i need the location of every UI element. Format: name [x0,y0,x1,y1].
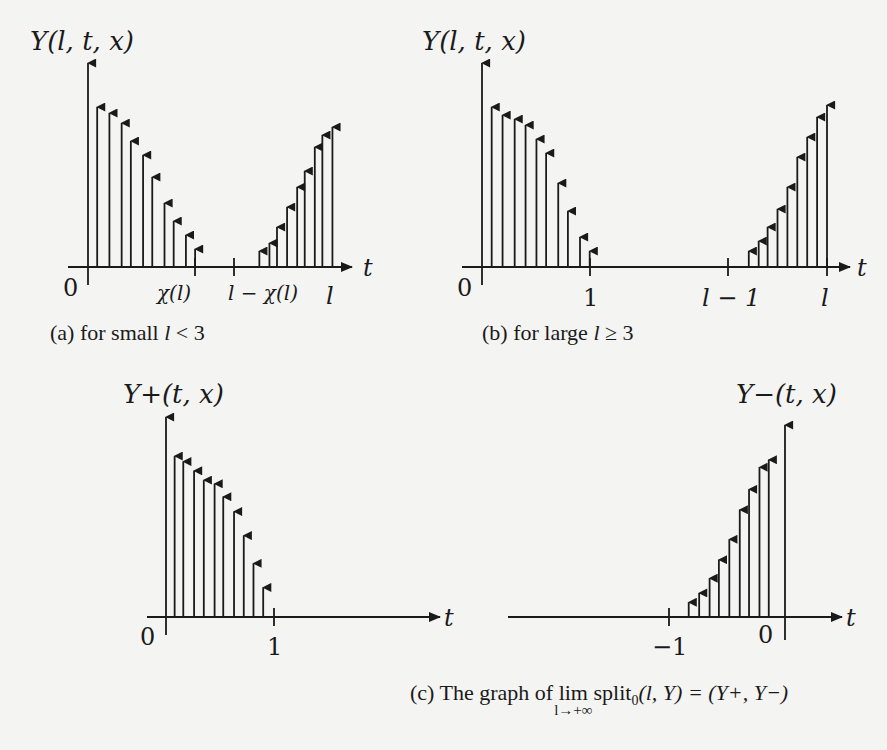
panel-b: Y(l, t, x) 0 1 l − 1 l t [422,26,867,312]
caption-c: (c) The graph of liml→+∞ split0(l, Y) = … [410,680,788,709]
caption-b-suffix: ≥ 3 [600,320,634,345]
panel-b-ylabel: Y(l, t, x) [422,26,526,56]
panel-c-left-xlabel: t [444,604,454,632]
panel-b-xlabel: t [857,254,867,282]
caption-c-func: split [593,680,631,705]
panel-a-ylabel: Y(l, t, x) [30,26,134,56]
caption-a-suffix: < 3 [170,320,204,345]
stem-arrows [97,105,827,617]
panel-a-tick-0: 0 [63,274,78,302]
panel-b-tick-l: l [821,284,829,312]
panel-c-left-tick-0: 0 [140,623,155,651]
caption-a-prefix: (a) for small [50,320,164,345]
panel-c-right: Y−(t, x) −1 0 t [652,379,856,661]
caption-c-args: (l, Y) = (Y+, Y−) [638,680,788,705]
caption-c-limit: liml→+∞ [559,680,588,706]
caption-c-prefix: (c) The graph of [410,680,559,705]
panel-b-tick-1: 1 [583,284,598,312]
caption-c-lim-sub: l→+∞ [554,702,592,719]
panel-a-tick-l-minus-chi: l − χ(l) [228,281,298,305]
panel-c-left: Y+(t, x) 0 1 t [123,379,454,661]
panel-a-xlabel: t [363,254,373,282]
caption-b-prefix: (b) for large [482,320,593,345]
panel-c-right-tick-minus-1: −1 [652,633,687,661]
caption-b: (b) for large l ≥ 3 [482,320,634,346]
panel-a-tick-chi: χ(l) [155,281,191,305]
panel-b-tick-0: 0 [457,274,472,302]
panel-a-tick-l: l [326,282,334,310]
panel-c-right-xlabel: t [846,604,856,632]
panel-c-right-tick-0: 0 [758,621,773,649]
panel-c-right-ylabel: Y−(t, x) [736,379,837,409]
panel-c-left-ylabel: Y+(t, x) [123,379,224,409]
caption-a: (a) for small l < 3 [50,320,205,346]
panel-b-tick-l-minus-1: l − 1 [702,284,760,312]
figure-canvas: Y(l, t, x) 0 χ(l) l − χ(l) l t Y(l, t, x… [0,0,887,750]
panel-c-left-tick-1: 1 [267,633,282,661]
axes [68,63,850,640]
